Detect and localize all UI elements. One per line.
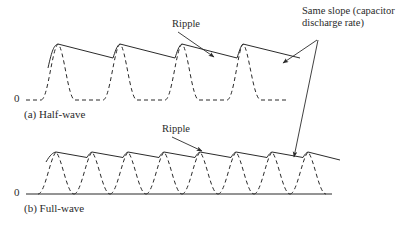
zero-label-half-wave: 0 <box>14 92 20 105</box>
ripple-label-full-wave: Ripple <box>162 123 190 135</box>
half-wave-panel <box>26 44 300 100</box>
slope-half-leader <box>283 40 317 63</box>
half-wave-filtered-output <box>48 44 300 68</box>
same-slope-line-2: discharge rate) <box>302 17 395 29</box>
full-wave-panel <box>26 152 340 194</box>
zero-label-full-wave: 0 <box>14 186 20 199</box>
same-slope-line-1: Same slope (capacitor <box>302 5 395 17</box>
full-wave-unfiltered-waveform <box>38 152 326 194</box>
caption-half-wave: (a) Half-wave <box>24 108 85 121</box>
same-slope-annotation: Same slope (capacitor discharge rate) <box>302 5 395 30</box>
full-wave-filtered-output <box>46 152 340 162</box>
annotation-leaders <box>172 32 318 157</box>
ripple-label-half-wave: Ripple <box>172 18 200 30</box>
caption-full-wave: (b) Full-wave <box>24 202 84 215</box>
ripple-full-leader <box>172 137 202 151</box>
